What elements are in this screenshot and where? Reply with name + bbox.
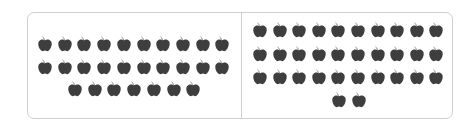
apple-icon [155, 59, 171, 75]
apple-icon [116, 59, 132, 75]
apple-icon [291, 69, 307, 85]
apple-icon [175, 59, 191, 75]
apple-icon [136, 59, 152, 75]
apple-icon [409, 46, 425, 62]
apple-icon [428, 22, 444, 38]
apple-icon [311, 22, 327, 38]
panel-divider [241, 12, 242, 119]
apple-icon [350, 46, 366, 62]
apple-icon [214, 59, 230, 75]
apple-icon [291, 46, 307, 62]
apple-icon [57, 36, 73, 52]
apple-icon [175, 36, 191, 52]
apple-icon [116, 36, 132, 52]
apple-icon [291, 22, 307, 38]
apple-icon [350, 22, 366, 38]
apple-icon [428, 69, 444, 85]
apple-icon [67, 81, 83, 97]
apple-icon [252, 69, 268, 85]
apple-icon [272, 22, 288, 38]
apple-icon [96, 36, 112, 52]
apple-icon [409, 22, 425, 38]
apple-icon [389, 69, 405, 85]
apple-icon [87, 81, 103, 97]
apple-icon [195, 59, 211, 75]
apple-icon [76, 59, 92, 75]
apple-icon [146, 81, 162, 97]
apple-icon [166, 81, 182, 97]
apple-icon [428, 46, 444, 62]
apple-icon [330, 69, 346, 85]
apple-icon [311, 46, 327, 62]
apple-icon [252, 22, 268, 38]
apple-icon [252, 46, 268, 62]
apple-icon [370, 22, 386, 38]
apple-icon [57, 59, 73, 75]
apple-icon [96, 59, 112, 75]
apple-icon [409, 69, 425, 85]
apple-icon [185, 81, 201, 97]
apple-icon [155, 36, 171, 52]
apple-icon [370, 46, 386, 62]
apple-icon [311, 69, 327, 85]
apple-icon [195, 36, 211, 52]
apple-icon [351, 92, 367, 108]
apple-icon [136, 36, 152, 52]
apple-icon [214, 36, 230, 52]
apple-icon [370, 69, 386, 85]
apple-icon [331, 92, 347, 108]
apple-icon [330, 22, 346, 38]
apple-icon [37, 59, 53, 75]
apple-icon [272, 69, 288, 85]
apple-icon [389, 22, 405, 38]
apple-icon [272, 46, 288, 62]
apple-icon [350, 69, 366, 85]
apple-icon [106, 81, 122, 97]
apple-icon [330, 46, 346, 62]
apple-icon [37, 36, 53, 52]
apple-icon [389, 46, 405, 62]
apple-icon [126, 81, 142, 97]
apple-icon [76, 36, 92, 52]
